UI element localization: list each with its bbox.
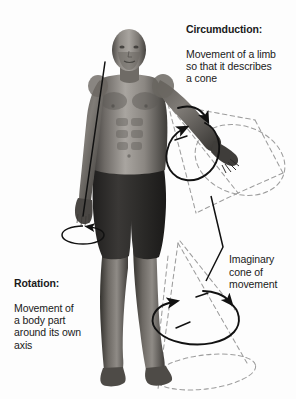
imaginary-cone-leader-line [206,196,223,281]
circumduction-arrow-leg [153,291,239,345]
anatomy-diagram: Circumduction: Movement of a limb so tha… [0,0,296,399]
figure-illustration [0,0,296,399]
